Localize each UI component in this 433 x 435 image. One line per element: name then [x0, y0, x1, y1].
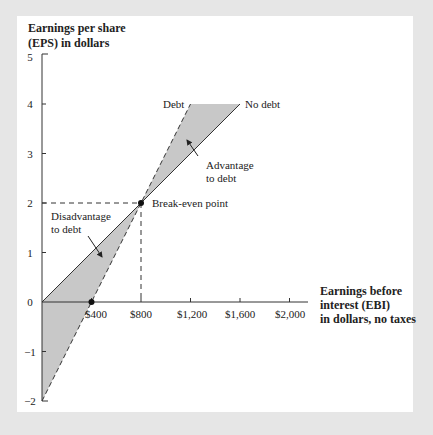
- y-tick-label: −2: [24, 395, 36, 407]
- eps-ebi-chart: Earnings per share (EPS) in dollars 5 4 …: [0, 0, 433, 435]
- x-axis-title-line1: Earnings before: [320, 284, 403, 298]
- x-tick-label: $1,600: [225, 308, 256, 320]
- y-axis-title-line1: Earnings per share: [28, 21, 126, 35]
- advantage-label-line1: Advantage: [206, 159, 254, 171]
- y-tick-label: 5: [27, 51, 33, 63]
- y-tick-label: −1: [24, 346, 36, 358]
- y-tick-label: 2: [27, 197, 33, 209]
- x-ticks: [92, 298, 290, 302]
- y-tick-label: 0: [27, 296, 33, 308]
- y-tick-label: 4: [27, 98, 33, 110]
- no-debt-series-label: No debt: [245, 98, 280, 110]
- y-axis-title-line2: (EPS) in dollars: [28, 36, 110, 50]
- x-tick-label: $800: [130, 308, 153, 320]
- y-tick-label: 1: [27, 247, 33, 259]
- y-tick-label: 3: [27, 148, 33, 160]
- debt-zero-eps-marker: [89, 299, 95, 305]
- disadvantage-label-line1: Disadvantage: [51, 210, 111, 222]
- debt-series-label: Debt: [163, 98, 184, 110]
- advantage-label-line2: to debt: [206, 172, 236, 184]
- break-even-marker: [138, 200, 144, 206]
- break-even-label: Break-even point: [152, 197, 228, 209]
- x-tick-label: $400: [85, 308, 108, 320]
- x-axis-title-line3: in dollars, no taxes: [320, 312, 416, 326]
- x-tick-label: $1,200: [177, 308, 208, 320]
- x-axis-title-line2: interest (EBI): [320, 298, 390, 312]
- x-tick-label: $2,000: [275, 308, 306, 320]
- disadvantage-label-line2: to debt: [51, 223, 81, 235]
